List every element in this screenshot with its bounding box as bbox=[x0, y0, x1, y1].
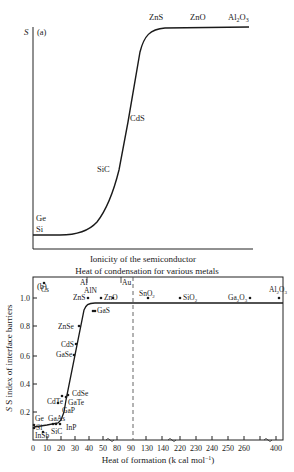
svg-text:230: 230 bbox=[190, 444, 202, 453]
panel-b-y-label: S S index of interface barriers bbox=[4, 304, 14, 412]
svg-text:Au: Au bbox=[122, 278, 131, 287]
svg-text:ZnSe: ZnSe bbox=[58, 322, 75, 331]
label-cds: CdS bbox=[130, 113, 145, 123]
panel-a-curve bbox=[33, 27, 249, 235]
svg-text:Ga2O3: Ga2O3 bbox=[228, 293, 248, 303]
svg-text:40: 40 bbox=[85, 444, 93, 453]
svg-text:GaSe: GaSe bbox=[56, 350, 73, 359]
label-zns: ZnS bbox=[149, 12, 163, 22]
svg-text:250: 250 bbox=[222, 444, 234, 453]
label-ge: Ge bbox=[36, 213, 46, 223]
svg-text:Ge: Ge bbox=[35, 414, 44, 423]
svg-text:50: 50 bbox=[99, 444, 107, 453]
panel-a-x-label: Ionicity of the semiconductor bbox=[90, 254, 196, 264]
svg-text:80: 80 bbox=[113, 444, 121, 453]
panel-b-x-ticks: 0 10 20 30 40 50 80 90 130 140 220 230 2… bbox=[31, 436, 282, 453]
svg-text:CdTe: CdTe bbox=[47, 397, 64, 406]
panel-a-label: (a) bbox=[37, 27, 47, 37]
label-si: Si bbox=[36, 224, 44, 234]
svg-text:CdS: CdS bbox=[61, 340, 74, 349]
svg-text:InSb: InSb bbox=[35, 431, 49, 440]
svg-text:10: 10 bbox=[43, 444, 51, 453]
svg-text:140: 140 bbox=[157, 444, 169, 453]
panel-a-y-label: S bbox=[24, 27, 29, 37]
svg-text:0.8: 0.8 bbox=[20, 322, 30, 331]
svg-text:240: 240 bbox=[206, 444, 218, 453]
svg-text:SiC: SiC bbox=[51, 427, 62, 436]
svg-text:260: 260 bbox=[238, 444, 250, 453]
svg-text:GaAs: GaAs bbox=[48, 414, 65, 423]
svg-text:GaS: GaS bbox=[97, 306, 110, 315]
svg-text:InP: InP bbox=[66, 423, 76, 432]
panel-b-y-ticks: 1.0 0.8 0.6 0.4 0.2 bbox=[20, 294, 37, 417]
svg-text:20: 20 bbox=[57, 444, 65, 453]
svg-text:AlN: AlN bbox=[84, 286, 98, 295]
svg-text:Al2O3: Al2O3 bbox=[269, 285, 287, 295]
label-al2o3: Al2O3 bbox=[228, 12, 249, 23]
panel-b-title: Heat of condensation for various metals bbox=[75, 266, 219, 276]
svg-text:Cs: Cs bbox=[41, 285, 49, 294]
svg-text:SiO2: SiO2 bbox=[183, 293, 198, 303]
svg-text:400: 400 bbox=[270, 444, 282, 453]
svg-text:SnO2: SnO2 bbox=[139, 289, 155, 299]
svg-text:0.2: 0.2 bbox=[20, 408, 30, 417]
svg-text:130: 130 bbox=[141, 444, 153, 453]
label-sic: SiC bbox=[97, 164, 110, 174]
panel-b-x-label: Heat of formation (k cal mol−1) bbox=[102, 455, 215, 465]
panel-b: Heat of condensation for various metals … bbox=[4, 266, 287, 465]
svg-text:0: 0 bbox=[31, 444, 35, 453]
panel-a: S (a) Ge Si SiC CdS ZnS ZnO Al2O3 Ionici… bbox=[24, 12, 253, 264]
svg-text:1.0: 1.0 bbox=[20, 294, 30, 303]
svg-text:220: 220 bbox=[174, 444, 186, 453]
svg-text:0.4: 0.4 bbox=[20, 380, 30, 389]
svg-text:ZnO: ZnO bbox=[104, 293, 118, 302]
svg-text:CdSe: CdSe bbox=[72, 389, 89, 398]
label-zno: ZnO bbox=[190, 12, 206, 22]
figure: S (a) Ge Si SiC CdS ZnS ZnO Al2O3 Ionici… bbox=[0, 0, 294, 472]
svg-text:30: 30 bbox=[71, 444, 79, 453]
svg-text:0.6: 0.6 bbox=[20, 352, 30, 361]
svg-text:90: 90 bbox=[127, 444, 135, 453]
